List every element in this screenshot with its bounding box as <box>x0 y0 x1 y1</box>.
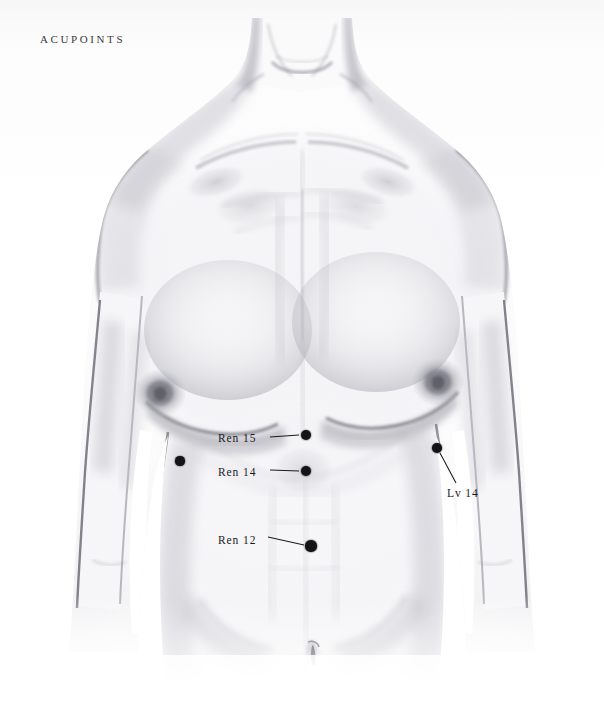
acupoint-dot-lv14-left[interactable] <box>175 456 184 465</box>
acupoint-label-ren15: Ren 15 <box>218 433 256 445</box>
acupoint-label-lv14: Lv 14 <box>447 488 479 500</box>
leader-line-lv14 <box>440 453 456 483</box>
acupoint-label-ren12: Ren 12 <box>218 535 256 547</box>
leader-line-ren14 <box>270 470 299 471</box>
leader-line-ren12 <box>268 537 304 545</box>
acupoints-illustration-page: Acupoints Ren 15 Ren 14 Ren 12 Lv 14 <box>0 0 604 727</box>
leader-line-ren15 <box>270 435 299 437</box>
acupoint-dot-ren12[interactable] <box>305 540 316 551</box>
acupoint-dot-ren14[interactable] <box>301 466 311 476</box>
acupoint-label-ren14: Ren 14 <box>218 467 256 479</box>
acupoint-leader-lines <box>0 0 604 727</box>
acupoint-dot-lv14-right[interactable] <box>432 443 442 453</box>
